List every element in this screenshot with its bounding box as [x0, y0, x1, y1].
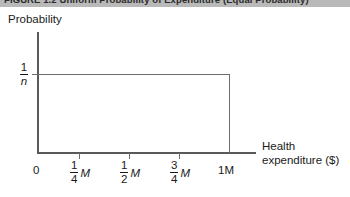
y-label-numerator: 1 [20, 62, 28, 74]
three-quarter-m-numerator: 3 [170, 160, 178, 172]
figure-container: FIGURE 1.2 Uniform Probability of Expend… [0, 0, 350, 197]
x-axis-title-line2: expenditure ($) [262, 153, 348, 167]
x-axis-tick-three-quarter-m [179, 153, 180, 159]
y-axis-tick-1-over-n [32, 74, 38, 75]
quarter-m-numerator: 1 [70, 160, 78, 172]
x-axis-label-quarter-m: 1 4 M [70, 160, 90, 185]
x-axis-tick-half-m [129, 153, 130, 159]
one-m-text: 1M [218, 164, 234, 176]
three-quarter-m-denominator: 4 [170, 174, 178, 186]
x-axis-label-one-m: 1M [218, 164, 234, 176]
x-axis-label-half-m: 1 2 M [120, 160, 140, 185]
figure-caption-band: FIGURE 1.2 Uniform Probability of Expend… [0, 0, 350, 7]
three-quarter-m-multiplier: M [180, 167, 190, 179]
quarter-m-denominator: 4 [70, 174, 78, 186]
y-axis-title: Probability [8, 13, 62, 25]
y-axis-line [37, 32, 39, 153]
y-label-denominator: n [20, 76, 28, 88]
x-label-zero-text: 0 [33, 164, 39, 176]
half-m-numerator: 1 [120, 160, 128, 172]
x-axis-label-three-quarter-m: 3 4 M [170, 160, 190, 185]
half-m-denominator: 2 [120, 174, 128, 186]
y-axis-label-1-over-n: 1 n [16, 62, 32, 87]
figure-caption: FIGURE 1.2 Uniform Probability of Expend… [4, 0, 309, 5]
distribution-right-line [229, 74, 230, 153]
x-axis-title: Health expenditure ($) [262, 139, 348, 168]
x-axis-tick-quarter-m [79, 153, 80, 159]
distribution-top-line [37, 74, 230, 75]
quarter-m-multiplier: M [80, 167, 90, 179]
x-axis-line [37, 152, 256, 154]
x-axis-title-line1: Health [262, 139, 348, 153]
x-axis-label-zero: 0 [33, 164, 39, 176]
half-m-multiplier: M [130, 167, 140, 179]
